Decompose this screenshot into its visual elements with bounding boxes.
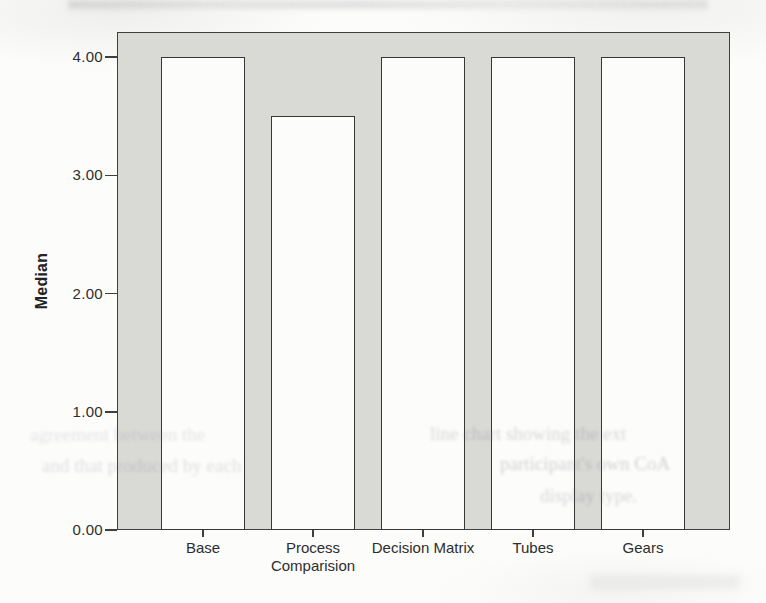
x-axis-tick-mark	[202, 530, 204, 537]
bar-tubes	[491, 57, 575, 530]
bar-base	[161, 57, 245, 530]
y-axis-tick-label: 1.00	[51, 403, 103, 420]
y-axis-tick-mark	[105, 56, 117, 58]
y-axis-tick-mark	[105, 529, 117, 531]
x-axis-category-label-line: Comparision	[233, 557, 393, 575]
x-axis-category-label: Gears	[563, 539, 723, 557]
y-axis-tick-label: 3.00	[51, 166, 103, 183]
y-axis-tick-mark	[105, 293, 117, 295]
x-axis-tick-mark	[642, 530, 644, 537]
bar-decision-matrix	[381, 57, 465, 530]
scan-artifact-top-smudge	[68, 0, 708, 9]
x-axis-tick-mark	[422, 530, 424, 537]
x-axis-tick-mark	[312, 530, 314, 537]
x-axis-tick-mark	[532, 530, 534, 537]
y-axis-tick-label: 2.00	[51, 285, 103, 302]
bar-process-comparision	[271, 116, 355, 530]
y-axis-tick-label: 0.00	[51, 521, 103, 538]
y-axis-tick-mark	[105, 175, 117, 177]
y-axis-tick-mark	[105, 411, 117, 413]
scanned-bar-chart-page: Median BaseProcessComparisionDecision Ma…	[0, 0, 766, 603]
scan-artifact-bottom-smudge	[590, 575, 740, 589]
y-axis-tick-label: 4.00	[51, 48, 103, 65]
bar-gears	[601, 57, 685, 530]
x-axis-category-label-line: Gears	[563, 539, 723, 557]
y-axis-title: Median	[33, 221, 55, 341]
